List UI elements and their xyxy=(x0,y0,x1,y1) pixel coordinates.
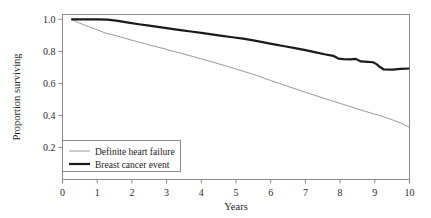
x-tick-label: 7 xyxy=(303,187,308,198)
survival-chart-figure: 0.20.40.60.81.0 012345678910 Proportion … xyxy=(0,0,431,218)
series-line-definite-heart-failure xyxy=(71,19,409,127)
x-tick-label: 3 xyxy=(164,187,169,198)
legend-label-definite-heart-failure: Definite heart failure xyxy=(95,147,175,157)
y-tick-label: 0.8 xyxy=(43,46,56,57)
y-tick-label: 0.2 xyxy=(43,142,56,153)
x-tick-label: 5 xyxy=(234,187,239,198)
chart-canvas: 0.20.40.60.81.0 012345678910 Proportion … xyxy=(0,0,431,218)
y-axis-title: Proportion surviving xyxy=(11,53,22,141)
x-tick-label: 1 xyxy=(95,187,100,198)
x-tick-label: 6 xyxy=(268,187,273,198)
x-tick-label: 2 xyxy=(129,187,134,198)
y-tick-label: 0.6 xyxy=(43,78,56,89)
x-tick-label: 8 xyxy=(338,187,343,198)
legend-label-breast-cancer-event: Breast cancer event xyxy=(95,160,170,170)
y-tick-label: 0.4 xyxy=(43,110,56,121)
chart-legend: Definite heart failure Breast cancer eve… xyxy=(63,141,181,172)
x-tick-label: 9 xyxy=(372,187,377,198)
y-axis-ticks: 0.20.40.60.81.0 xyxy=(43,14,63,153)
x-axis-title: Years xyxy=(224,201,247,212)
x-tick-label: 10 xyxy=(405,187,415,198)
series-layer xyxy=(71,19,409,127)
series-line-breast-cancer-event xyxy=(71,19,409,69)
x-tick-label: 4 xyxy=(199,187,204,198)
y-tick-label: 1.0 xyxy=(43,14,56,25)
x-axis-ticks: 012345678910 xyxy=(60,180,415,198)
x-tick-label: 0 xyxy=(60,187,65,198)
